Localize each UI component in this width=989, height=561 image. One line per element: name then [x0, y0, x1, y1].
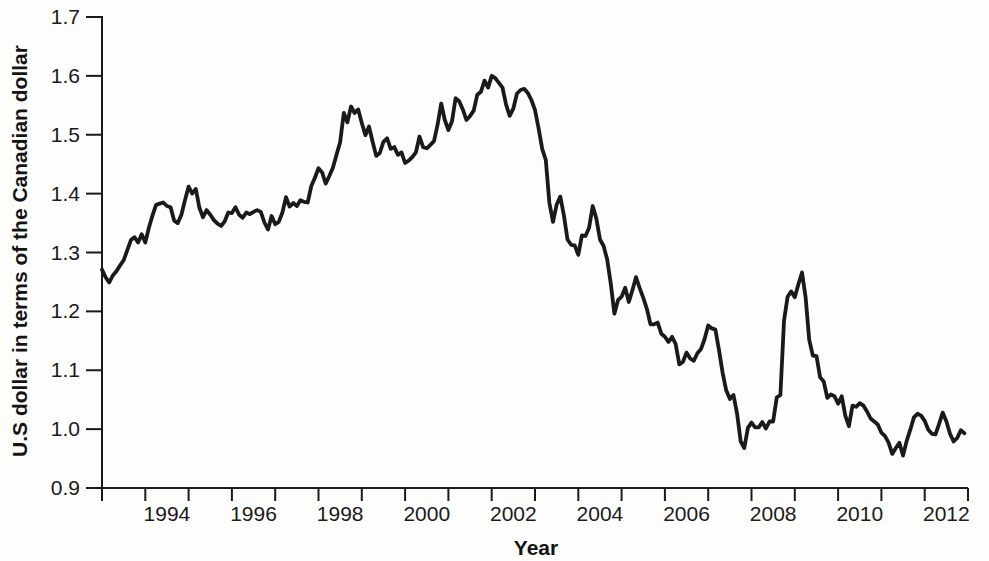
x-tick-label: 2002: [490, 502, 537, 525]
x-tick-label: 2008: [750, 502, 797, 525]
y-tick-label: 1.6: [51, 64, 80, 87]
exchange-rate-line: [102, 76, 964, 456]
x-axis-title: Year: [514, 536, 558, 560]
x-tick-label: 1996: [230, 502, 277, 525]
x-tick-label: 2000: [403, 502, 450, 525]
y-tick-label: 1.0: [51, 417, 80, 440]
x-tick-label: 1994: [144, 502, 191, 525]
y-tick-label: 1.7: [51, 5, 80, 28]
y-tick-label: 1.5: [51, 123, 80, 146]
y-tick-label: 1.4: [51, 182, 81, 205]
y-tick-label: 1.2: [51, 299, 80, 322]
x-tick-label: 1998: [317, 502, 364, 525]
x-tick-label: 2010: [836, 502, 883, 525]
x-tick-label: 2004: [577, 502, 624, 525]
y-tick-label: 0.9: [51, 476, 80, 499]
y-axis-title: U.S dollar in terms of the Canadian doll…: [8, 45, 32, 457]
y-tick-label: 1.3: [51, 241, 80, 264]
y-tick-label: 1.1: [51, 358, 80, 381]
chart-canvas: 0.91.01.11.21.31.41.51.61.71994199619982…: [0, 0, 989, 561]
x-tick-label: 2006: [663, 502, 710, 525]
exchange-rate-figure: 0.91.01.11.21.31.41.51.61.71994199619982…: [0, 0, 989, 561]
x-tick-label: 2012: [923, 502, 970, 525]
